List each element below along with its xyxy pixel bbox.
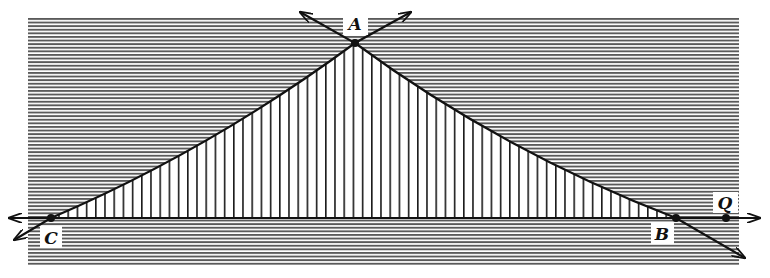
triangle-diagram: A B C Q xyxy=(0,0,770,278)
label-b: B xyxy=(654,224,669,244)
point-b xyxy=(672,214,680,222)
point-a xyxy=(351,39,359,47)
label-a: A xyxy=(346,14,361,34)
label-q: Q xyxy=(718,193,733,213)
point-q xyxy=(722,214,730,222)
label-c: C xyxy=(44,228,58,248)
point-c xyxy=(47,214,55,222)
